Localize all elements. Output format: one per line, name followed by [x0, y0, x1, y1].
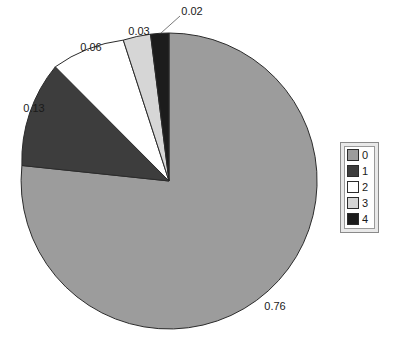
legend-swatch-3: [348, 198, 359, 209]
legend-item-1[interactable]: 1: [348, 165, 369, 177]
legend-item-0[interactable]: 0: [348, 149, 369, 161]
legend-label-2: 2: [362, 181, 368, 193]
legend-label-4: 4: [362, 213, 368, 225]
legend-label-0: 0: [362, 149, 368, 161]
legend-swatch-4: [348, 214, 359, 225]
legend-label-1: 1: [362, 165, 368, 177]
pie-chart-canvas: 0.76 0.13 0.06 0.03 0.02 0 1 2 3: [0, 0, 394, 351]
legend-item-4[interactable]: 4: [348, 213, 369, 225]
pie-value-label-1: 0.13: [23, 102, 44, 114]
legend: 0 1 2 3 4: [341, 143, 379, 233]
pie-value-label-4: 0.02: [181, 5, 202, 17]
legend-swatch-1: [348, 166, 359, 177]
pie-value-label-2: 0.06: [80, 41, 101, 53]
legend-item-2[interactable]: 2: [348, 181, 369, 193]
legend-label-3: 3: [362, 197, 368, 209]
legend-swatch-2: [348, 182, 359, 193]
pie-value-label-0: 0.76: [264, 300, 285, 312]
legend-item-3[interactable]: 3: [348, 197, 369, 209]
pie-slices: [21, 33, 317, 329]
legend-swatch-0: [348, 150, 359, 161]
pie-value-label-3: 0.03: [128, 25, 149, 37]
